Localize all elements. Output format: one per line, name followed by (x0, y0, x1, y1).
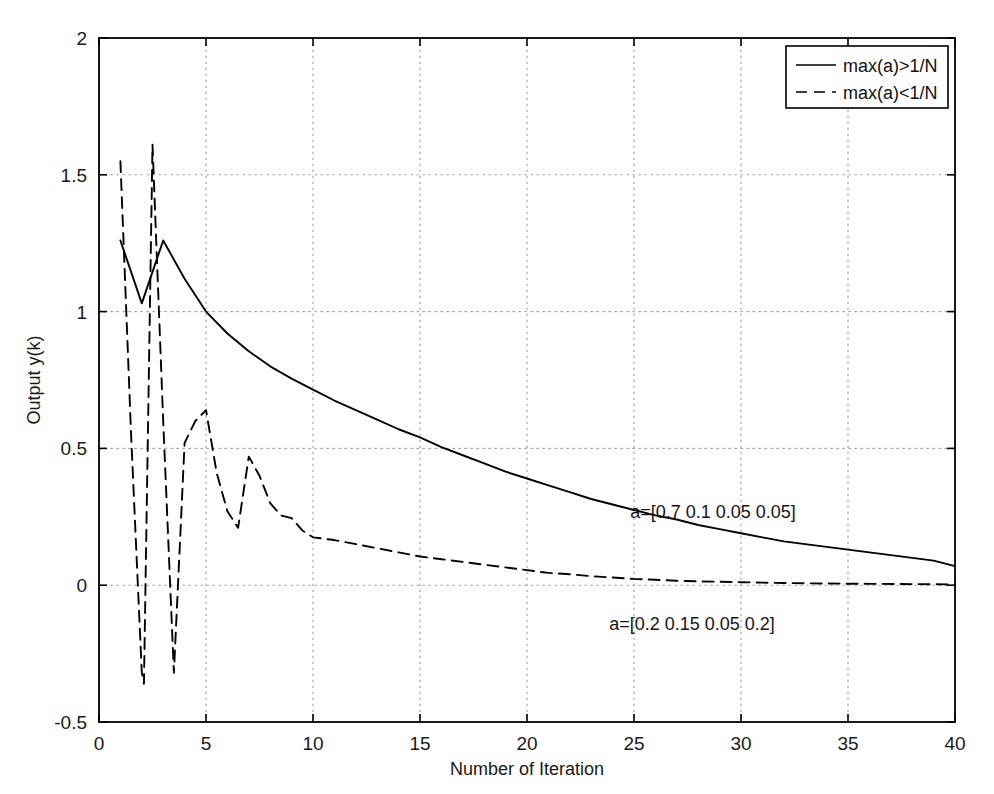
legend-label-solid: max(a)>1/N (843, 56, 938, 76)
y-tick-label: 2 (76, 28, 87, 49)
legend-label-dashed: max(a)<1/N (843, 83, 938, 103)
y-tick-label: 1.5 (61, 165, 87, 186)
x-tick-label: 10 (302, 733, 323, 754)
y-tick-label: 0.5 (61, 438, 87, 459)
y-axis-title: Output y(k) (24, 335, 44, 424)
x-tick-label: 25 (623, 733, 644, 754)
x-tick-label: 5 (201, 733, 212, 754)
annotation-dashed-curve: a=[0.2 0.15 0.05 0.2] (609, 614, 775, 634)
x-tick-label: 30 (730, 733, 751, 754)
y-tick-label: 0 (76, 575, 87, 596)
x-tick-label: 35 (837, 733, 858, 754)
line-chart: 0510152025303540 -0.500.511.52 Number of… (0, 0, 994, 794)
x-tick-label: 40 (944, 733, 965, 754)
y-tick-label: -0.5 (54, 712, 87, 733)
x-tick-label: 15 (409, 733, 430, 754)
legend: max(a)>1/N max(a)<1/N (786, 46, 948, 108)
x-tick-label: 20 (516, 733, 537, 754)
y-tick-label: 1 (76, 302, 87, 323)
annotation-solid-curve: a=[0.7 0.1 0.05 0.05] (630, 502, 796, 522)
x-tick-label: 0 (94, 733, 105, 754)
x-axis-title: Number of Iteration (450, 759, 604, 779)
figure-container: 0510152025303540 -0.500.511.52 Number of… (0, 0, 994, 794)
